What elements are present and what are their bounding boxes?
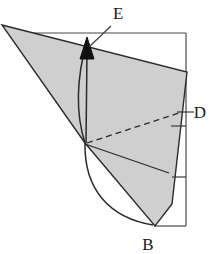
label-e: E — [113, 4, 123, 23]
figure-container: E D B — [0, 0, 216, 254]
label-d: D — [194, 103, 206, 122]
label-b: B — [142, 235, 153, 254]
geometric-diagram: E D B — [0, 0, 216, 254]
arrow-shaft — [86, 52, 87, 143]
